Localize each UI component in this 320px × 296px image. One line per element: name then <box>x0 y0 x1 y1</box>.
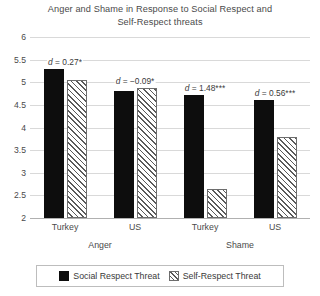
y-axis-tick-label: 4.5 <box>14 100 26 110</box>
legend-item: Social Respect Threat <box>59 271 159 281</box>
effect-size-annotation: d = −0.09* <box>115 76 156 86</box>
bar-solid-0 <box>44 69 64 218</box>
effect-size-symbol: d <box>48 57 53 67</box>
y-axis-tick-label: 2.5 <box>14 190 26 200</box>
bar-hatched-2 <box>207 189 227 218</box>
x-axis-category-label: Turkey <box>192 222 219 232</box>
x-axis-group-label: Anger <box>88 240 111 250</box>
bar-hatched-1 <box>137 88 157 218</box>
effect-size-annotation: d = 1.48*** <box>184 83 226 93</box>
legend-swatch-hatched <box>169 271 179 281</box>
bar-hatched-0 <box>67 80 87 218</box>
gridline <box>30 218 310 219</box>
x-axis-category-label: Turkey <box>52 222 79 232</box>
bar-hatched-3 <box>277 137 297 218</box>
bar-chart-figure: Anger and Shame in Response to Social Re… <box>0 0 320 296</box>
chart-title-line-2: Self-Respect threats <box>26 16 294 29</box>
plot-area: 65.554.543.532.52d = 0.27*d = −0.09*d = … <box>30 37 310 218</box>
chart-title: Anger and Shame in Response to Social Re… <box>26 3 294 28</box>
effect-size-symbol: d <box>185 83 190 93</box>
effect-size-annotation: d = 0.56*** <box>254 88 296 98</box>
legend-label: Social Respect Threat <box>73 271 159 281</box>
x-axis-category-label: US <box>129 222 141 232</box>
effect-size-symbol: d <box>116 76 121 86</box>
chart-legend: Social Respect ThreatSelf-Respect Threat <box>36 265 284 287</box>
legend-item: Self-Respect Threat <box>169 271 261 281</box>
y-axis-tick-label: 2 <box>21 213 26 223</box>
y-axis-tick-label: 6 <box>21 32 26 42</box>
gridline <box>30 37 310 38</box>
chart-title-line-1: Anger and Shame in Response to Social Re… <box>26 3 294 16</box>
y-axis-tick-label: 3 <box>21 168 26 178</box>
y-axis-tick-label: 5 <box>21 77 26 87</box>
legend-swatch-solid <box>59 271 69 281</box>
effect-size-symbol: d <box>255 88 260 98</box>
bar-solid-1 <box>114 91 134 218</box>
y-axis-tick-label: 5.5 <box>14 55 26 65</box>
x-axis-group-label: Shame <box>226 240 254 250</box>
bar-solid-2 <box>184 95 204 218</box>
y-axis-tick-label: 4 <box>21 123 26 133</box>
y-axis-tick-label: 3.5 <box>14 145 26 155</box>
bar-solid-3 <box>254 100 274 218</box>
legend-label: Self-Respect Threat <box>183 271 261 281</box>
x-axis-category-label: US <box>269 222 281 232</box>
effect-size-annotation: d = 0.27* <box>47 57 83 67</box>
